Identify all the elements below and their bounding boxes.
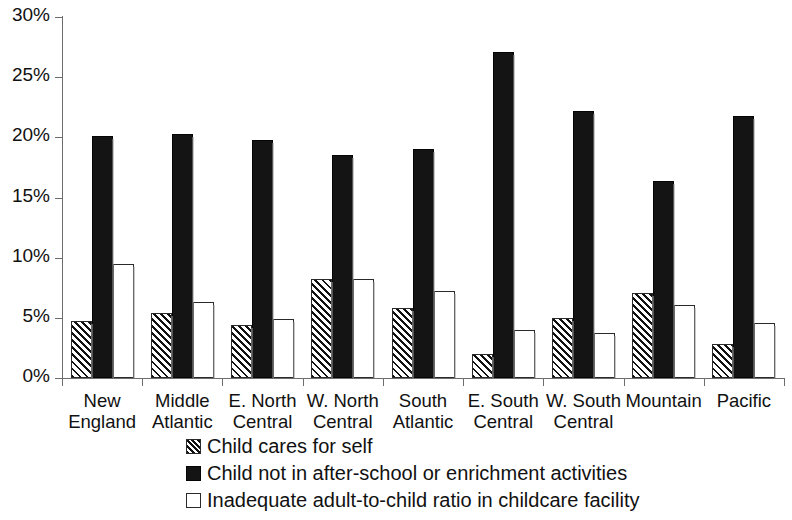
bar bbox=[552, 318, 573, 378]
y-axis-tick bbox=[55, 17, 63, 18]
x-axis-line bbox=[62, 378, 784, 379]
y-axis-tick-label: 10% bbox=[0, 245, 50, 267]
bar bbox=[193, 302, 214, 378]
bar bbox=[332, 155, 353, 378]
legend-item: Child cares for self bbox=[186, 433, 639, 460]
y-axis-tick bbox=[55, 258, 63, 259]
bar bbox=[573, 111, 594, 378]
x-axis-category-label: Pacific bbox=[704, 390, 784, 411]
y-axis-tick bbox=[55, 77, 63, 78]
bar bbox=[514, 330, 535, 378]
legend-item: Inadequate adult-to-child ratio in child… bbox=[186, 487, 639, 514]
x-axis-tick bbox=[303, 378, 304, 386]
bar bbox=[231, 325, 252, 378]
y-axis-tick-label: 5% bbox=[0, 305, 50, 327]
y-axis-tick bbox=[55, 198, 63, 199]
bar bbox=[594, 333, 615, 378]
bar bbox=[273, 319, 294, 378]
legend-swatch-white-icon bbox=[186, 493, 201, 508]
bar bbox=[674, 305, 695, 378]
bar bbox=[252, 140, 273, 378]
bar bbox=[151, 313, 172, 378]
bar bbox=[92, 136, 113, 378]
bar bbox=[113, 264, 134, 378]
x-axis-tick bbox=[704, 378, 705, 386]
y-axis-tick-label: 0% bbox=[0, 365, 50, 387]
x-axis-tick bbox=[142, 378, 143, 386]
bar bbox=[632, 293, 653, 378]
x-axis-tick bbox=[784, 378, 785, 386]
y-axis-tick bbox=[55, 318, 63, 319]
y-axis-tick-label: 20% bbox=[0, 124, 50, 146]
x-axis-tick bbox=[543, 378, 544, 386]
x-axis-tick bbox=[62, 378, 63, 386]
bar bbox=[413, 149, 434, 378]
legend-label: Inadequate adult-to-child ratio in child… bbox=[207, 489, 639, 512]
x-axis-category-label: E. North Central bbox=[222, 390, 302, 432]
x-axis-tick bbox=[624, 378, 625, 386]
x-axis-category-label: New England bbox=[62, 390, 142, 432]
legend-item: Child not in after-school or enrichment … bbox=[186, 460, 639, 487]
legend-swatch-black-icon bbox=[186, 466, 201, 481]
y-axis-tick bbox=[55, 137, 63, 138]
bar bbox=[71, 321, 92, 378]
bar-chart: 30%25%20%15%10%5%0% Child cares for self… bbox=[0, 0, 792, 520]
y-axis-tick-label: 30% bbox=[0, 4, 50, 26]
bar bbox=[392, 308, 413, 378]
x-axis-category-label: Middle Atlantic bbox=[142, 390, 222, 432]
x-axis-category-label: E. South Central bbox=[463, 390, 543, 432]
bar bbox=[311, 279, 332, 378]
x-axis-category-label: Mountain bbox=[624, 390, 704, 411]
legend-swatch-hatched-icon bbox=[186, 439, 201, 454]
bar bbox=[353, 279, 374, 378]
bar bbox=[733, 116, 754, 378]
x-axis-category-label: W. North Central bbox=[303, 390, 383, 432]
x-axis-category-label: South Atlantic bbox=[383, 390, 463, 432]
bar bbox=[172, 134, 193, 378]
legend-label: Child not in after-school or enrichment … bbox=[207, 462, 627, 485]
bar bbox=[434, 291, 455, 378]
bar bbox=[754, 323, 775, 378]
x-axis-tick bbox=[383, 378, 384, 386]
x-axis-tick bbox=[222, 378, 223, 386]
bar bbox=[653, 181, 674, 378]
y-axis-tick-label: 25% bbox=[0, 64, 50, 86]
y-axis-tick-label: 15% bbox=[0, 185, 50, 207]
bar bbox=[472, 354, 493, 378]
x-axis-tick bbox=[463, 378, 464, 386]
chart-legend: Child cares for selfChild not in after-s… bbox=[186, 433, 639, 514]
bar bbox=[493, 52, 514, 378]
legend-label: Child cares for self bbox=[207, 435, 373, 458]
x-axis-category-label: W. South Central bbox=[543, 390, 623, 432]
bar bbox=[712, 344, 733, 378]
bars-layer bbox=[62, 17, 784, 378]
